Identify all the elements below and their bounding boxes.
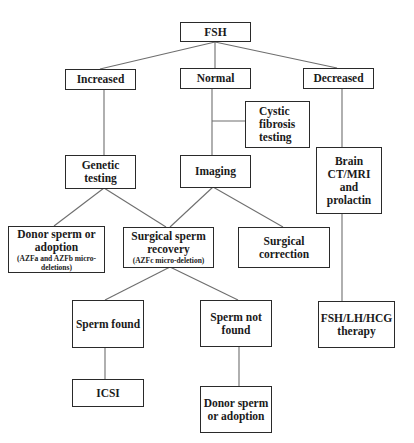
node-surgical-sperm-recovery: Surgical sperm recovery (AZFc micro-dele…	[123, 227, 214, 268]
node-decreased: Decreased	[303, 68, 374, 89]
node-icsi: ICSI	[72, 379, 144, 407]
node-donor-sperm-or-adoption: Donor sperm or adoption	[200, 386, 272, 433]
node-normal: Normal	[180, 68, 251, 89]
node-fsh-lh-hcg-therapy: FSH/LH/HCG therapy	[318, 301, 395, 348]
node-genetic-testing: Genetic testing	[65, 155, 136, 189]
fsh-flowchart: FSH Increased Normal Decreased Cystic fi…	[0, 0, 414, 443]
node-cystic-fibrosis-testing: Cystic fibrosis testing	[245, 101, 310, 148]
node-imaging: Imaging	[180, 155, 251, 188]
node-brain-ct-mri-prolactin: Brain CT/MRI and prolactin	[316, 147, 382, 214]
node-surgical-correction: Surgical correction	[238, 227, 330, 268]
node-sperm-not-found: Sperm not found	[200, 300, 272, 347]
node-fsh: FSH	[180, 22, 251, 42]
node-sperm-found: Sperm found	[72, 300, 144, 348]
connector-lines	[0, 0, 414, 443]
node-increased: Increased	[65, 69, 136, 90]
node-donor-sperm-or-adoption-azf: Donor sperm or adoption (AZFa and AZFb m…	[8, 226, 105, 273]
